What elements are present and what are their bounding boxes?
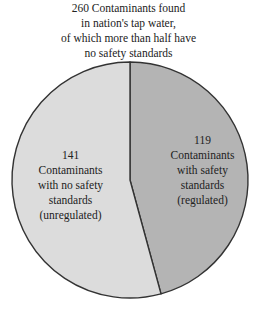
slice-label-line: with safety — [150, 163, 255, 178]
slice-label-line: Contaminants — [18, 163, 123, 178]
slice-label-line: standards — [150, 178, 255, 193]
slice-label-regulated: 119 Contaminants with safety standards (… — [150, 133, 255, 208]
slice-label-line: with no safety — [18, 178, 123, 193]
slice-label-unregulated: 141 Contaminants with no safety standard… — [18, 148, 123, 223]
slice-label-line: Contaminants — [150, 148, 255, 163]
slice-label-line: (regulated) — [150, 193, 255, 208]
slice-value: 119 — [150, 133, 255, 148]
slice-label-line: standards — [18, 193, 123, 208]
slice-label-line: (unregulated) — [18, 208, 123, 223]
slice-value: 141 — [18, 148, 123, 163]
